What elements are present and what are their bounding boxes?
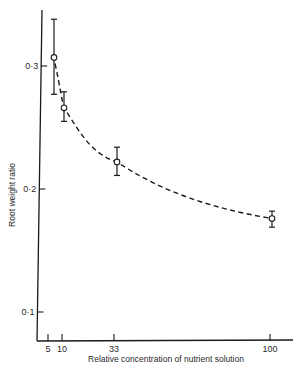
data-points	[51, 19, 275, 227]
open-circle-marker	[114, 159, 120, 165]
open-circle-marker	[269, 216, 275, 222]
y-axis-title: Root weight ratio	[7, 163, 17, 227]
fitted-curve	[55, 63, 272, 218]
y-axis	[37, 10, 42, 341]
data-point	[61, 92, 67, 122]
data-point	[114, 147, 120, 175]
x-tick-label: 33	[109, 344, 119, 354]
x-tick-label: 5	[45, 344, 50, 354]
x-axis	[37, 340, 293, 341]
y-axis-ticks: 0·10·20·3	[21, 61, 47, 317]
data-point	[269, 211, 275, 227]
open-circle-marker	[51, 55, 57, 61]
y-tick-label: 0·2	[23, 184, 36, 194]
x-axis-title: Relative concentration of nutrient solut…	[88, 354, 244, 364]
open-circle-marker	[61, 105, 67, 111]
x-axis-ticks: 51033100	[45, 334, 277, 354]
x-tick-label: 100	[262, 344, 277, 354]
y-tick-label: 0·3	[25, 61, 38, 71]
x-tick-label: 10	[57, 344, 67, 354]
y-tick-label: 0·1	[21, 307, 34, 317]
root-weight-ratio-chart: 0·10·20·3 51033100 Root weight ratio Rel…	[0, 0, 304, 372]
data-point	[51, 19, 57, 94]
